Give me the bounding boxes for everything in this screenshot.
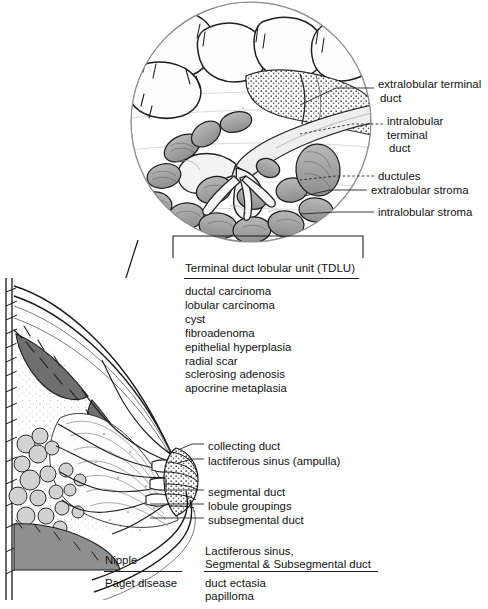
callout-subsegmental-duct: subsegmental duct (208, 514, 304, 528)
breast-cross-section (0, 276, 200, 609)
tdlu-lesion-list: ductal carcinoma lobular carcinoma cyst … (185, 285, 291, 396)
table-right-header-line-2: Segmental & Subsegmental duct (205, 558, 371, 571)
list-item: ductal carcinoma (185, 285, 291, 299)
magnified-inset-group (125, 0, 378, 248)
list-item: lobular carcinoma (185, 299, 291, 313)
tdlu-caption-underline (184, 278, 359, 279)
table-right-header: Lactiferous sinus, Segmental & Subsegmen… (205, 545, 371, 572)
callout-line-1: extralobular terminal (378, 78, 484, 92)
list-item: fibroadenoma (185, 327, 291, 341)
callout-extralobular-terminal-duct: extralobular terminal duct (378, 78, 484, 105)
callout-collecting-duct: collecting duct (208, 440, 280, 454)
callout-intralobular-terminal-duct: intralobular terminal duct (387, 115, 487, 156)
list-item: radial scar (185, 355, 291, 369)
callout-line-1: intralobular terminal (387, 115, 487, 142)
callout-line-2: duct (378, 92, 484, 106)
callout-lobule-groupings: lobule groupings (208, 500, 292, 514)
table-right-underline (204, 571, 378, 572)
callout-segmental-duct: segmental duct (208, 486, 285, 500)
list-item: cyst (185, 313, 291, 327)
tdlu-caption: Terminal duct lobular unit (TDLU) (185, 261, 355, 277)
table-right-header-line-1: Lactiferous sinus, (205, 545, 371, 558)
table-left-underline (104, 571, 182, 572)
list-item: epithelial hyperplasia (185, 341, 291, 355)
table-left-entry: Paget disease (105, 577, 177, 591)
callout-line-2: duct (387, 142, 487, 156)
callout-intralobular-stroma: intralobular stroma (378, 206, 472, 220)
callout-extralobular-stroma: extralobular stroma (371, 184, 469, 198)
table-right-entries: duct ectasia papilloma (205, 577, 266, 604)
callout-ductules: ductules (378, 170, 420, 184)
table-left-header: Nipple (105, 554, 137, 568)
figure-canvas: extralobular terminal duct intralobular … (0, 0, 488, 609)
callout-lactiferous-sinus: lactiferous sinus (ampulla) (208, 455, 340, 469)
list-item: apocrine metaplasia (185, 382, 291, 396)
table-right-entry: papilloma (205, 590, 266, 603)
list-item: sclerosing adenosis (185, 368, 291, 382)
table-right-entry: duct ectasia (205, 577, 266, 590)
